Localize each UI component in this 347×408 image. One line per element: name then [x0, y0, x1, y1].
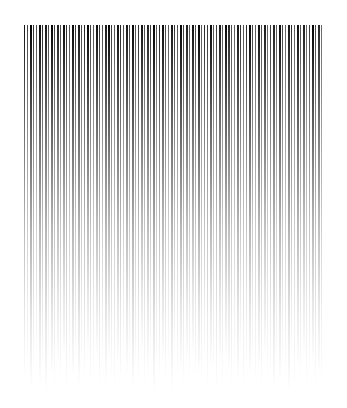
line-stripe	[264, 25, 266, 356]
artwork-canvas	[0, 0, 347, 408]
line-stripe	[96, 25, 98, 358]
line-stripe	[114, 25, 115, 388]
line-stripe	[297, 25, 299, 368]
line-stripe	[216, 25, 217, 391]
line-stripe	[33, 25, 34, 371]
line-stripe	[288, 25, 290, 392]
line-stripe	[108, 25, 110, 360]
line-stripe	[27, 25, 28, 362]
line-stripe	[309, 25, 310, 371]
line-stripe	[219, 25, 221, 364]
line-stripe	[102, 25, 103, 367]
line-stripe	[213, 25, 214, 377]
line-stripe	[249, 25, 251, 375]
line-stripe	[315, 25, 316, 386]
line-stripe	[189, 25, 190, 381]
line-stripe	[177, 25, 178, 376]
line-stripe	[168, 25, 169, 366]
line-stripe	[132, 25, 134, 389]
line-stripe	[120, 25, 121, 380]
line-stripe	[243, 25, 244, 389]
line-stripe	[93, 25, 94, 372]
line-stripe	[207, 25, 208, 388]
line-stripe	[195, 25, 196, 379]
line-stripe	[36, 25, 37, 355]
line-stripe	[138, 25, 139, 382]
line-stripe	[294, 25, 295, 385]
line-stripe	[111, 25, 112, 377]
line-stripe	[261, 25, 262, 387]
line-stripe	[129, 25, 130, 365]
line-stripe	[81, 25, 82, 366]
line-stripe	[303, 25, 305, 357]
line-stripe	[87, 25, 89, 353]
line-stripe	[42, 25, 43, 368]
line-stripe	[318, 25, 320, 374]
line-stripe	[147, 25, 149, 373]
line-stripe	[255, 25, 256, 384]
line-stripe	[69, 25, 70, 369]
line-stripe	[246, 25, 247, 365]
line-stripe	[321, 25, 322, 381]
line-stripe	[66, 25, 67, 390]
line-stripe	[198, 25, 200, 374]
line-stripe	[285, 25, 286, 376]
vertical-line-field	[0, 0, 347, 408]
line-stripe	[231, 25, 232, 386]
line-stripe	[240, 25, 241, 353]
line-stripe	[144, 25, 145, 386]
line-stripe	[174, 25, 175, 357]
line-stripe	[51, 25, 53, 375]
line-stripe	[84, 25, 85, 379]
line-stripe	[54, 25, 55, 386]
line-stripe	[312, 25, 314, 363]
line-stripe	[156, 25, 157, 368]
line-stripe	[279, 25, 281, 382]
line-stripe	[90, 25, 91, 385]
line-stripe	[153, 25, 155, 392]
line-stripe	[57, 25, 59, 364]
line-stripe	[126, 25, 128, 374]
line-stripe	[237, 25, 239, 380]
line-stripe	[30, 25, 32, 389]
line-stripe	[75, 25, 76, 361]
line-stripe	[306, 25, 307, 388]
line-stripe	[201, 25, 202, 385]
line-stripe	[45, 25, 47, 392]
line-stripe	[252, 25, 253, 362]
line-stripe	[117, 25, 119, 363]
line-stripe	[171, 25, 173, 390]
line-stripe	[165, 25, 166, 384]
line-stripe	[159, 25, 160, 378]
line-stripe	[222, 25, 223, 383]
line-stripe	[276, 25, 277, 361]
line-stripe	[78, 25, 80, 387]
line-stripe	[150, 25, 151, 359]
line-stripe	[24, 25, 25, 378]
line-stripe	[186, 25, 188, 363]
line-stripe	[162, 25, 164, 361]
line-stripe	[72, 25, 74, 376]
line-stripe	[39, 25, 41, 384]
line-stripe	[141, 25, 143, 354]
line-stripe	[123, 25, 124, 356]
line-stripe	[204, 25, 205, 360]
line-stripe	[273, 25, 275, 390]
line-stripe	[234, 25, 235, 369]
line-stripe	[60, 25, 61, 381]
line-stripe	[267, 25, 268, 378]
line-stripe	[63, 25, 65, 357]
line-stripe	[291, 25, 292, 359]
line-stripe	[105, 25, 107, 383]
line-stripe	[270, 25, 271, 373]
line-stripe	[300, 25, 301, 379]
line-stripe	[258, 25, 260, 370]
line-stripe	[99, 25, 100, 391]
line-stripe	[228, 25, 230, 372]
line-stripe	[48, 25, 49, 359]
line-stripe	[282, 25, 283, 366]
line-stripe	[225, 25, 227, 358]
line-stripe	[180, 25, 182, 371]
line-stripe	[183, 25, 184, 387]
line-stripe	[135, 25, 136, 370]
